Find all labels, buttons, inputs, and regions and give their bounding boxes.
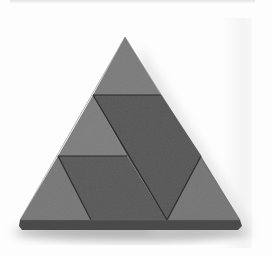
triangle-puzzle xyxy=(0,0,272,256)
photo-background xyxy=(0,0,272,256)
wood-grain-texture xyxy=(20,37,240,220)
base-slab xyxy=(19,220,242,230)
